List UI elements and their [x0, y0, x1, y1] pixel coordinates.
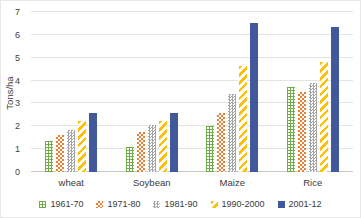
bar-1981-90-soybean: [148, 125, 156, 172]
legend-item-1971-80: 1971-80: [96, 199, 140, 209]
legend-label-1990-2000: 1990-2000: [222, 199, 265, 209]
bar-1961-70-soybean: [126, 147, 134, 172]
bar-1971-80-soybean: [137, 132, 145, 172]
legend-item-1990-2000: 1990-2000: [211, 199, 265, 209]
y-axis-tick-labels: 01234567: [1, 12, 26, 172]
bar-2001-12-rice: [331, 27, 339, 172]
bar-1990-2000-maize: [239, 66, 247, 172]
legend-label-1961-70: 1961-70: [50, 199, 83, 209]
yield-bar-chart: Tons/ha 01234567 wheatSoybeanMaizeRice 1…: [0, 0, 361, 218]
bar-1971-80-maize: [217, 113, 225, 172]
legend-label-1971-80: 1971-80: [107, 199, 140, 209]
y-tick-label-5: 5: [15, 53, 20, 62]
bar-group-rice: [273, 12, 354, 172]
y-tick-label-3: 3: [15, 99, 20, 108]
legend-swatch-1971-80: [96, 201, 103, 208]
y-tick-label-4: 4: [15, 76, 20, 85]
bar-1961-70-rice: [287, 87, 295, 172]
y-tick-label-1: 1: [15, 145, 20, 154]
y-tick-label-6: 6: [15, 30, 20, 39]
legend-item-1981-90: 1981-90: [153, 199, 197, 209]
category-label-wheat: wheat: [31, 177, 112, 191]
x-axis-category-labels: wheatSoybeanMaizeRice: [31, 177, 353, 191]
y-tick-label-7: 7: [15, 8, 20, 17]
category-label-soybean: Soybean: [112, 177, 193, 191]
bar-1961-70-wheat: [45, 141, 53, 172]
bar-group-maize: [192, 12, 273, 172]
bar-1971-80-wheat: [56, 135, 64, 172]
legend-swatch-1990-2000: [211, 201, 218, 208]
bar-1961-70-maize: [206, 126, 214, 172]
legend-item-2001-12: 2001-12: [278, 199, 322, 209]
bar-2001-12-maize: [250, 23, 258, 172]
y-tick-label-2: 2: [15, 122, 20, 131]
legend-swatch-2001-12: [278, 201, 285, 208]
bar-1981-90-wheat: [67, 130, 75, 172]
legend-label-1981-90: 1981-90: [164, 199, 197, 209]
bar-group-soybean: [112, 12, 193, 172]
legend-item-1961-70: 1961-70: [39, 199, 83, 209]
bar-1990-2000-rice: [320, 62, 328, 172]
category-label-maize: Maize: [192, 177, 273, 191]
bar-2001-12-soybean: [170, 113, 178, 172]
plot-area: [31, 12, 353, 172]
bar-groups: [31, 12, 353, 172]
bar-2001-12-wheat: [89, 113, 97, 172]
bar-1981-90-rice: [309, 83, 317, 172]
bar-1990-2000-wheat: [78, 121, 86, 172]
bar-1971-80-rice: [298, 92, 306, 172]
legend: 1961-701971-801981-901990-20002001-12: [1, 196, 360, 212]
legend-swatch-1961-70: [39, 201, 46, 208]
bar-1981-90-maize: [228, 94, 236, 172]
category-label-rice: Rice: [273, 177, 354, 191]
y-tick-label-0: 0: [15, 168, 20, 177]
bar-1990-2000-soybean: [159, 121, 167, 172]
legend-label-2001-12: 2001-12: [289, 199, 322, 209]
legend-swatch-1981-90: [153, 201, 160, 208]
bar-group-wheat: [31, 12, 112, 172]
